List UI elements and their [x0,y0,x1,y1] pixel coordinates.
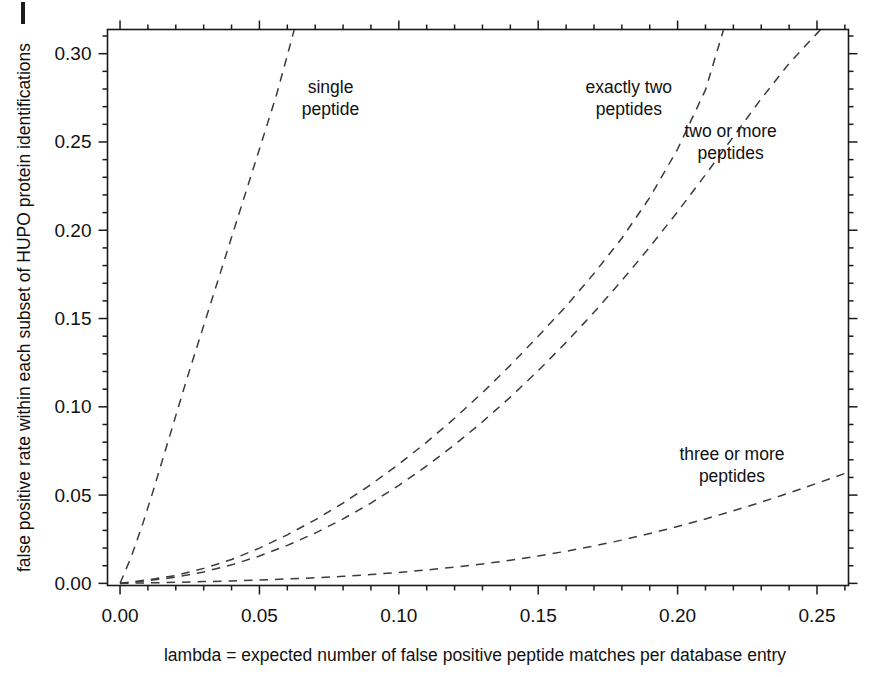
y-axis-tick-label: 0.20 [55,220,92,241]
curve-label-line: two or more [684,121,776,141]
chart-plot: 0.000.050.100.150.200.250.000.050.100.15… [0,0,886,677]
x-axis-tick-label: 0.25 [799,605,836,626]
y-axis-tick-label: 0.00 [55,573,92,594]
curve-label-line: three or more [679,444,784,464]
x-axis-tick-label: 0.00 [102,605,139,626]
x-axis-tick-label: 0.20 [659,605,696,626]
y-axis-tick-label: 0.25 [55,131,92,152]
y-axis-tick-label: 0.15 [55,308,92,329]
x-axis-tick-label: 0.05 [241,605,278,626]
x-axis-tick-label: 0.15 [520,605,557,626]
y-axis-tick-label: 0.10 [55,396,92,417]
curve-label-line: peptides [697,143,763,163]
y-axis-tick-label: 0.30 [55,43,92,64]
curve-label-line: peptides [699,466,765,486]
figure-canvas: 0.000.050.100.150.200.250.000.050.100.15… [0,0,886,677]
curve-label-line: peptides [596,99,662,119]
curve-label-line: exactly two [586,77,673,97]
curve-label-line: single [308,77,354,97]
x-axis-tick-label: 0.10 [380,605,417,626]
curve-label-line: peptide [302,99,359,119]
y-axis-tick-label: 0.05 [55,485,92,506]
x-axis-title: lambda = expected number of false positi… [164,645,786,665]
y-axis-title: false positive rate within each subset o… [14,43,34,572]
plot-frame [108,30,849,586]
